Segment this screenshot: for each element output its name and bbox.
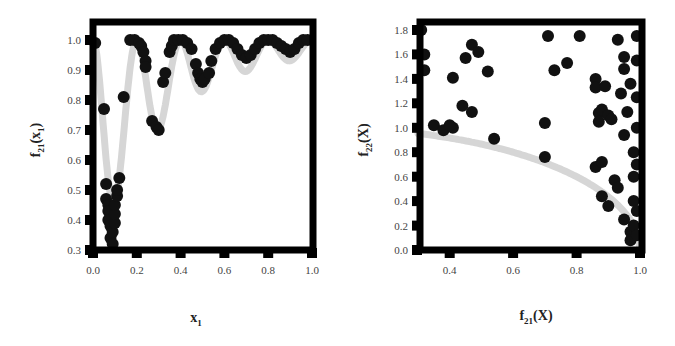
- x-tick-label: 1.0: [633, 264, 647, 276]
- data-point: [612, 182, 624, 194]
- y-tick-label: 0.6: [394, 171, 408, 183]
- x-tick-mark: [635, 248, 645, 258]
- data-point: [159, 67, 171, 79]
- y-tick-label: 0.4: [394, 195, 408, 207]
- data-point: [628, 146, 640, 158]
- figure: 0.30.40.50.60.70.80.91.0 0.00.20.40.60.8…: [0, 0, 675, 346]
- y-tick-mark: [412, 74, 422, 84]
- y-tick-mark: [412, 98, 422, 108]
- data-point: [621, 106, 633, 118]
- y-tick-mark: [85, 185, 95, 195]
- data-point: [444, 119, 456, 131]
- y-tick-label: 1.8: [394, 24, 408, 36]
- data-point: [205, 55, 217, 67]
- data-point: [542, 30, 554, 42]
- y-tick-label: 0.7: [67, 124, 81, 136]
- y-tick-mark: [412, 172, 422, 182]
- data-point: [612, 34, 624, 46]
- x-tick-mark: [307, 248, 317, 258]
- y-tick-mark: [85, 95, 95, 105]
- data-point: [618, 129, 630, 141]
- y-tick-mark: [412, 221, 422, 231]
- data-point: [111, 184, 123, 196]
- y-tick-label: 0.2: [394, 220, 408, 232]
- y-tick-label: 0.3: [67, 244, 81, 256]
- x-tick-mark: [132, 248, 142, 258]
- data-point: [186, 43, 198, 55]
- data-point: [548, 64, 560, 76]
- data-point: [618, 51, 630, 63]
- data-point: [460, 52, 472, 64]
- y-tick-label: 1.6: [394, 48, 408, 60]
- x-tick-mark: [445, 248, 455, 258]
- x-tick-mark: [88, 248, 98, 258]
- data-point: [618, 63, 630, 75]
- y-tick-mark: [85, 65, 95, 75]
- x-tick-label: 0.6: [218, 264, 232, 276]
- y-axis-label: f22(X): [356, 123, 374, 156]
- x-tick-label: 0.8: [261, 264, 275, 276]
- y-tick-mark: [412, 25, 422, 35]
- y-tick-label: 1.4: [394, 73, 408, 85]
- data-point: [596, 190, 608, 202]
- x-tick-mark: [572, 248, 582, 258]
- data-point: [98, 103, 110, 115]
- data-point: [599, 80, 611, 92]
- data-point: [140, 61, 152, 73]
- data-point: [113, 172, 125, 184]
- data-point: [482, 66, 494, 78]
- plot-f21-vs-x1: 0.30.40.50.60.70.80.91.0 0.00.20.40.60.8…: [28, 22, 319, 328]
- x-tick-label: 0.8: [570, 264, 584, 276]
- data-point: [539, 151, 551, 163]
- y-tick-mark: [412, 196, 422, 206]
- data-point: [488, 133, 500, 145]
- y-tick-label: 0.6: [67, 154, 81, 166]
- x-axis-label: x1: [190, 310, 202, 328]
- y-tick-label: 0.8: [67, 94, 81, 106]
- data-point: [118, 91, 130, 103]
- y-axis-label: f21(x1): [28, 122, 46, 157]
- x-tick-mark: [508, 248, 518, 258]
- y-tick-label: 1.0: [394, 122, 408, 134]
- plot-f22-vs-f21: 0.00.20.40.60.81.01.21.41.61.8 0.40.60.8…: [356, 22, 647, 326]
- x-tick-label: 0.4: [443, 264, 457, 276]
- y-tick-mark: [412, 147, 422, 157]
- data-point: [203, 67, 215, 79]
- data-point: [466, 106, 478, 118]
- x-tick-label: 0.4: [174, 264, 188, 276]
- data-point: [153, 124, 165, 136]
- data-point: [574, 30, 586, 42]
- x-tick-label: 0.2: [130, 264, 144, 276]
- y-tick-label: 0.9: [67, 64, 81, 76]
- y-tick-mark: [412, 245, 422, 255]
- data-point: [561, 57, 573, 69]
- y-tick-mark: [85, 215, 95, 225]
- data-point: [628, 171, 640, 183]
- data-point: [602, 200, 614, 212]
- y-tick-label: 0.0: [394, 244, 408, 256]
- x-axis-label: f21(X): [519, 308, 552, 326]
- y-tick-label: 1.2: [394, 97, 408, 109]
- y-tick-label: 0.4: [67, 214, 81, 226]
- y-tick-mark: [412, 123, 422, 133]
- reference-curve: [93, 40, 312, 203]
- y-tick-mark: [85, 155, 95, 165]
- data-point: [447, 72, 459, 84]
- data-point: [625, 78, 637, 90]
- y-tick-label: 1.0: [67, 34, 81, 46]
- x-tick-mark: [219, 248, 229, 258]
- x-tick-mark: [176, 248, 186, 258]
- y-tick-label: 0.8: [394, 146, 408, 158]
- data-point: [596, 156, 608, 168]
- data-point: [539, 117, 551, 129]
- data-point: [606, 113, 618, 125]
- data-point: [472, 46, 484, 58]
- y-tick-mark: [85, 35, 95, 45]
- y-tick-mark: [85, 125, 95, 135]
- reference-curve: [418, 133, 640, 250]
- x-tick-label: 0.6: [506, 264, 520, 276]
- x-tick-mark: [263, 248, 273, 258]
- data-point: [615, 88, 627, 100]
- y-tick-mark: [412, 49, 422, 59]
- y-tick-label: 0.5: [67, 184, 81, 196]
